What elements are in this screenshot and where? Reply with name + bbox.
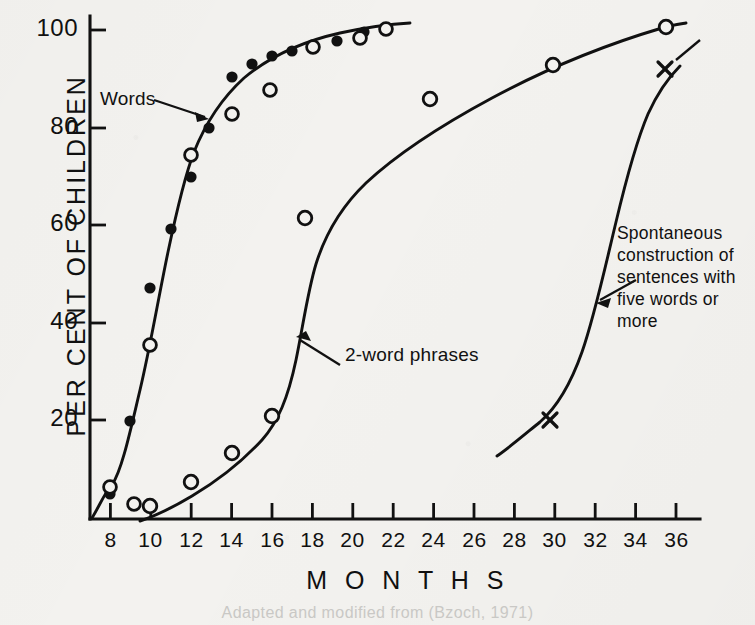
- annotation-tail-upper-x: [676, 40, 700, 60]
- x-axis-ticks: [110, 503, 676, 519]
- y-tick-label-80: 80: [2, 112, 78, 140]
- x-axis-title: M O N T H S: [0, 566, 755, 595]
- y-axis-title: PER CENT OF CHILDREN: [62, 117, 91, 437]
- series-label-two-word-phrases: 2-word phrases: [345, 344, 479, 366]
- annotation-arrow-two-word-phrases: [296, 331, 340, 365]
- markers-two-word-phrases: [143, 20, 673, 513]
- y-tick-label-20: 20: [2, 404, 78, 432]
- x-axis-title-text: M O N T H S: [246, 566, 509, 595]
- y-tick-label-60: 60: [2, 209, 78, 237]
- x-tick-label-36: 36: [652, 528, 701, 552]
- y-tick-label-40: 40: [2, 307, 78, 335]
- series-label-words: Words: [100, 88, 156, 110]
- axis-lines: [90, 16, 700, 519]
- series-label-spontaneous-sentences: Spontaneous construction of sentences wi…: [617, 222, 736, 332]
- figure-canvas: PER CENT OF CHILDREN M O N T H S 100 80 …: [0, 0, 755, 625]
- figure-caption: Adapted and modified from (Bzoch, 1971): [0, 604, 755, 622]
- annotation-arrow-words: [154, 100, 209, 122]
- y-tick-label-100: 100: [2, 14, 78, 42]
